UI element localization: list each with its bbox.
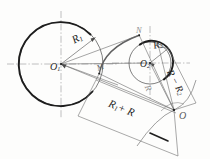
label-point-n: N [136,26,142,35]
extension-line-from-o [174,110,178,156]
tangent-blend-arc [99,35,139,73]
ray-o1-to-o2 [61,63,150,64]
point-m-marker [98,73,100,75]
dimension-tick-heavy [150,133,168,141]
label-center-o2: O2 [140,60,150,70]
label-center-o1: O1 [50,62,60,72]
dimension-line-r1-plus-r [78,116,178,156]
point-o-marker [173,109,175,111]
label-arc-center-o: O [179,111,186,121]
extension-line-r-minus-r2-bottom [174,103,196,110]
technical-drawing-canvas: O1 R1 M N O2 R2 R1+ R R − R2 R O [0,0,210,159]
ray-o1-to-m [61,64,118,85]
